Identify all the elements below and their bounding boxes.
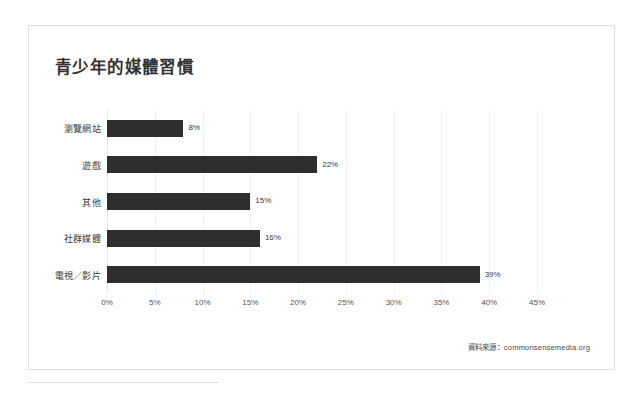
bar-row[interactable]: 15%	[107, 183, 537, 220]
category-label: 瀏覽網站	[64, 122, 101, 135]
bar-row[interactable]: 8%	[107, 110, 537, 147]
y-axis-labels: 瀏覽網站遊戲其他社群媒體電視／影片	[29, 110, 101, 293]
bar[interactable]	[107, 156, 317, 173]
x-tick-label: 0%	[101, 298, 113, 307]
x-axis-labels: 0%5%10%15%20%25%30%35%40%45%	[107, 298, 537, 314]
x-tick-label: 15%	[242, 298, 258, 307]
category-label: 電視／影片	[55, 269, 102, 282]
x-tick-label: 20%	[290, 298, 306, 307]
chart-card: 青少年的媒體習慣 瀏覽網站遊戲其他社群媒體電視／影片 8%22%15%16%39…	[28, 25, 615, 370]
x-tick-label: 5%	[149, 298, 161, 307]
plot-area: 8%22%15%16%39%	[107, 110, 537, 293]
x-tick-label: 25%	[338, 298, 354, 307]
bar-value-label: 39%	[485, 271, 501, 279]
bar-value-label: 16%	[265, 234, 281, 242]
bar-series: 8%22%15%16%39%	[107, 110, 537, 293]
x-tick-label: 30%	[386, 298, 402, 307]
bar-row[interactable]: 39%	[107, 256, 537, 293]
x-tick-label: 45%	[529, 298, 545, 307]
x-tick-label: 40%	[481, 298, 497, 307]
bar[interactable]	[107, 230, 260, 247]
category-label: 其他	[82, 196, 101, 209]
bar[interactable]	[107, 193, 250, 210]
x-tick-label: 35%	[433, 298, 449, 307]
bar-value-label: 8%	[188, 124, 200, 132]
bar-value-label: 22%	[322, 161, 338, 169]
category-label: 遊戲	[82, 159, 101, 172]
bar-row[interactable]: 16%	[107, 220, 537, 257]
bar-value-label: 15%	[255, 197, 271, 205]
source-note: 資料來源：commonsensemedia.org	[468, 341, 590, 352]
page-title: 青少年的媒體習慣	[55, 54, 194, 78]
bottom-divider	[28, 382, 218, 383]
category-label: 社群媒體	[64, 232, 101, 245]
gridline	[537, 110, 538, 293]
x-tick-label: 10%	[195, 298, 211, 307]
bar-row[interactable]: 22%	[107, 147, 537, 184]
bar[interactable]	[107, 120, 183, 137]
bar[interactable]	[107, 266, 480, 283]
